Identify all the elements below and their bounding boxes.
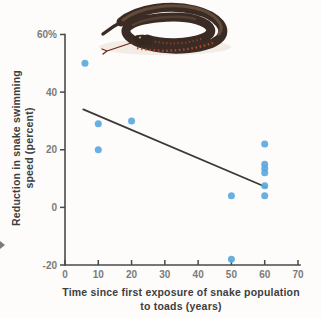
- x-tick-label: 0: [62, 269, 68, 280]
- x-tick-label: 40: [193, 269, 205, 280]
- data-point: [261, 182, 268, 189]
- x-tick-label: 20: [126, 269, 138, 280]
- page-edge-arrow-fragment: [0, 241, 5, 249]
- y-tick-label: 0: [51, 202, 57, 213]
- y-tick-label: 60%: [37, 29, 57, 40]
- data-point: [261, 192, 268, 199]
- y-tick-label: 40: [46, 87, 58, 98]
- data-point: [261, 140, 268, 147]
- data-point: [95, 120, 102, 127]
- y-axis-title-line1: Reduction in snake swimming: [10, 48, 23, 248]
- y-axis-title-line2: speed (percent): [23, 48, 36, 248]
- scatter-chart: -200204060%010203040506070: [0, 0, 321, 318]
- x-tick-label: 60: [259, 269, 271, 280]
- figure-snake-toad-scatter: -200204060%010203040506070 Reduction in …: [0, 0, 321, 318]
- data-point: [228, 256, 235, 263]
- x-axis-title-line2: to toads (years): [51, 299, 311, 313]
- data-point: [261, 169, 268, 176]
- x-tick-label: 50: [226, 269, 238, 280]
- data-point: [95, 146, 102, 153]
- x-axis-title-line1: Time since first exposure of snake popul…: [51, 285, 311, 299]
- y-axis-title: Reduction in snake swimming speed (perce…: [10, 48, 38, 248]
- x-axis-title: Time since first exposure of snake popul…: [51, 285, 311, 313]
- y-tick-label: 20: [46, 144, 58, 155]
- data-point: [128, 117, 135, 124]
- trend-line: [83, 109, 266, 187]
- data-point: [228, 192, 235, 199]
- x-tick-label: 10: [93, 269, 105, 280]
- data-point: [81, 60, 88, 67]
- x-tick-label: 70: [292, 269, 304, 280]
- y-tick-label: -20: [43, 260, 58, 271]
- x-tick-label: 30: [159, 269, 171, 280]
